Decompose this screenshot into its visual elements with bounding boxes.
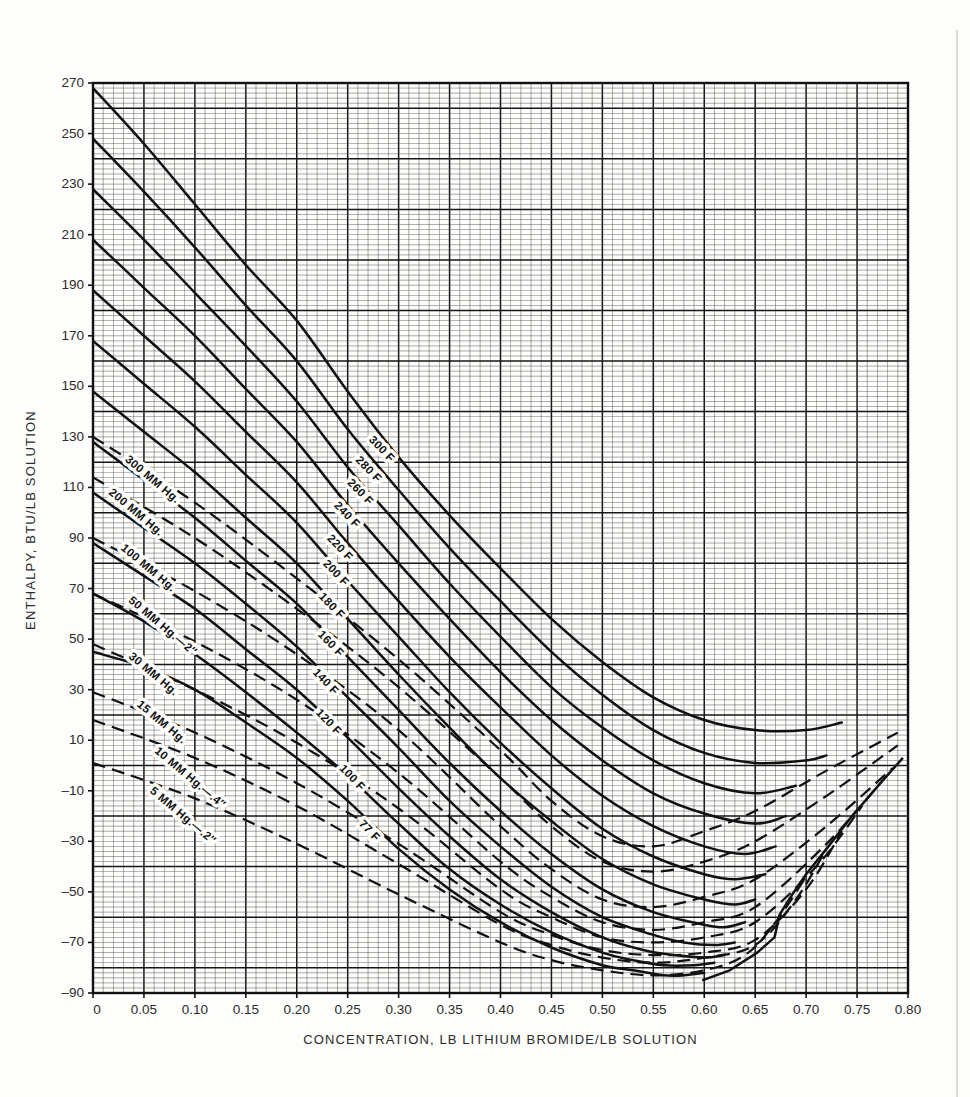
plot-area-svg: 300 MM Hg.200 MM Hg.100 MM Hg.50 MM Hg.—… xyxy=(0,0,970,1097)
isotherm-77F-label: 77 F xyxy=(357,818,383,844)
pressure-100mm-label: 100 MM Hg. xyxy=(119,541,178,593)
y-tick-230: 230 xyxy=(61,176,84,191)
y-tick-–10: –10 xyxy=(61,783,84,798)
pressure-200mm-label: 200 MM Hg. xyxy=(107,486,166,538)
y-tick-190: 190 xyxy=(61,277,84,292)
x-tick-0.50: 0.50 xyxy=(589,1002,615,1017)
y-axis-title: ENTHALPY, BTU/LB SOLUTION xyxy=(23,310,43,730)
x-tick-0.75: 0.75 xyxy=(844,1002,870,1017)
x-tick-0.25: 0.25 xyxy=(335,1002,361,1017)
pressure-300mm xyxy=(93,437,898,847)
y-tick-270: 270 xyxy=(61,75,84,90)
y-tick-–70: –70 xyxy=(61,934,84,949)
y-tick-–30: –30 xyxy=(61,833,84,848)
x-tick-0.45: 0.45 xyxy=(538,1002,564,1017)
isotherm-260F xyxy=(93,189,796,793)
x-tick-0.10: 0.10 xyxy=(182,1002,208,1017)
y-tick-–90: –90 xyxy=(61,985,84,1000)
grid xyxy=(93,83,908,993)
isotherm-120F-label: 120 F xyxy=(314,706,344,737)
x-tick-0.60: 0.60 xyxy=(691,1002,717,1017)
x-tick-0.20: 0.20 xyxy=(284,1002,310,1017)
y-tick-110: 110 xyxy=(62,479,84,494)
isotherm-100F-label: 100 F xyxy=(337,762,367,793)
y-tick-70: 70 xyxy=(69,581,84,596)
x-tick-0.30: 0.30 xyxy=(385,1002,411,1017)
y-tick-90: 90 xyxy=(69,530,84,545)
x-tick-0.15: 0.15 xyxy=(233,1002,259,1017)
enthalpy-concentration-chart: 300 MM Hg.200 MM Hg.100 MM Hg.50 MM Hg.—… xyxy=(0,0,970,1097)
y-tick-50: 50 xyxy=(69,631,84,646)
isotherm-180F-label: 180 F xyxy=(317,590,347,621)
x-tick-0.55: 0.55 xyxy=(640,1002,666,1017)
page-edge-shadow xyxy=(956,30,958,1097)
y-tick-170: 170 xyxy=(61,328,84,343)
x-axis-title: CONCENTRATION, LB LITHIUM BROMIDE/LB SOL… xyxy=(93,1032,908,1052)
x-tick-0.70: 0.70 xyxy=(793,1002,819,1017)
y-tick-150: 150 xyxy=(61,378,84,393)
y-tick-130: 130 xyxy=(61,429,84,444)
axis-ticks: 2702502302101901701501301109070503010–10… xyxy=(61,75,921,1017)
y-tick-210: 210 xyxy=(61,227,84,242)
y-tick-–50: –50 xyxy=(61,884,84,899)
x-tick-0.80: 0.80 xyxy=(895,1002,921,1017)
x-tick-0.35: 0.35 xyxy=(436,1002,462,1017)
y-tick-250: 250 xyxy=(61,126,84,141)
x-tick-0.05: 0.05 xyxy=(131,1002,157,1017)
y-tick-10: 10 xyxy=(69,732,84,747)
pressure-30mm-label: 30 MM Hg. xyxy=(127,650,181,698)
x-tick-0: 0 xyxy=(93,1002,101,1017)
y-tick-30: 30 xyxy=(69,682,84,697)
x-tick-0.40: 0.40 xyxy=(487,1002,513,1017)
x-tick-0.65: 0.65 xyxy=(742,1002,768,1017)
